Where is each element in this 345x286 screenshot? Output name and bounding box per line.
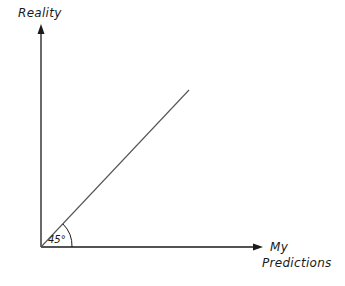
x-axis-label-line2: Predictions	[262, 256, 332, 270]
y-axis-arrow-icon	[38, 24, 45, 34]
angle-label: 45°	[48, 234, 66, 245]
y-axis-label: Reality	[18, 6, 62, 20]
x-axis-arrow-icon	[253, 244, 263, 251]
diagonal-line	[41, 90, 189, 247]
x-axis-label-line1: My	[270, 240, 288, 254]
